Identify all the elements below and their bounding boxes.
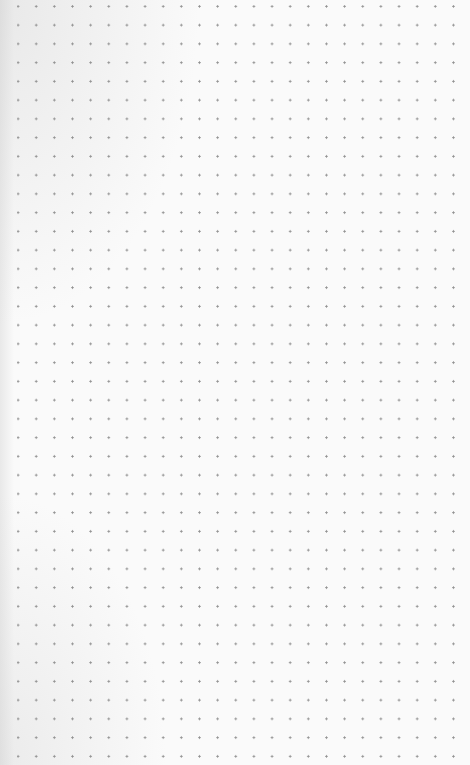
dot-grid-pattern	[17, 5, 457, 761]
dot-grid-paper	[0, 0, 470, 765]
